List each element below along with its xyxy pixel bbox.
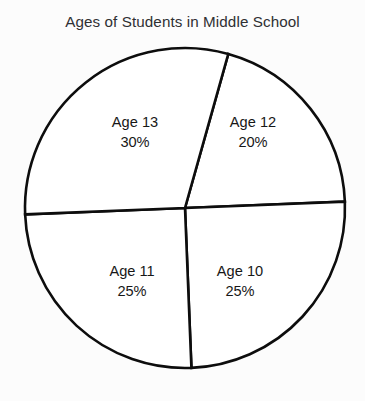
pie-slices-group [25,48,345,368]
slice-label-age-12-name: Age 12 [230,114,276,130]
slice-label-age-10-value: 25% [225,283,254,299]
pie-chart-figure: Ages of Students in Middle School Age 12… [0,0,365,401]
slice-label-age-13-value: 30% [120,134,149,150]
slice-label-age-10-name: Age 10 [217,263,263,279]
slice-label-age-13-name: Age 13 [112,114,158,130]
slice-label-age-11-name: Age 11 [109,263,154,279]
slice-label-age-12-value: 20% [238,134,267,150]
chart-title: Ages of Students in Middle School [65,13,300,30]
slice-label-age-11-value: 25% [117,283,146,299]
